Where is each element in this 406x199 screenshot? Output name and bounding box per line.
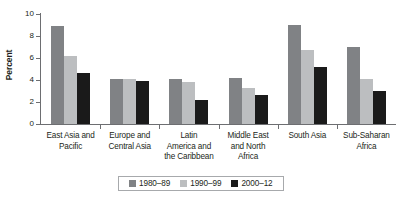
- bar: [136, 81, 149, 124]
- bar: [373, 91, 386, 124]
- legend-item[interactable]: 1990–99: [180, 179, 221, 188]
- x-axis-category-label: Middle Eastand NorthAfrica: [215, 131, 282, 163]
- x-axis-tick: [337, 125, 338, 129]
- legend-label: 1990–99: [190, 179, 221, 188]
- y-axis-tick: [36, 36, 40, 37]
- bar-group: [278, 14, 337, 124]
- bar: [314, 67, 327, 124]
- y-axis-tick-label: 2: [12, 98, 34, 106]
- x-axis-tick: [219, 125, 220, 129]
- bar: [195, 100, 208, 124]
- plot-area: [41, 14, 396, 124]
- y-axis-tick-label: 4: [12, 76, 34, 84]
- bar-chart: Percent 0246810 East Asia andPacificEuro…: [0, 0, 406, 199]
- bar: [347, 47, 360, 124]
- x-axis-tick: [278, 125, 279, 129]
- x-axis-category-label: East Asia andPacific: [37, 131, 104, 152]
- y-axis-title: Percent: [0, 0, 18, 130]
- y-axis-tick-label: 0: [12, 120, 34, 128]
- y-axis-tick: [36, 102, 40, 103]
- x-axis-tick: [100, 125, 101, 129]
- bar-group: [41, 14, 100, 124]
- y-axis-tick: [36, 58, 40, 59]
- bar: [77, 73, 90, 124]
- legend-label: 2000–12: [241, 179, 272, 188]
- y-axis-tick: [36, 124, 40, 125]
- x-axis-tick: [159, 125, 160, 129]
- bar: [182, 82, 195, 124]
- bar-group: [337, 14, 396, 124]
- bar: [51, 26, 64, 124]
- x-axis-category-label: South Asia: [274, 131, 341, 142]
- bar: [242, 88, 255, 124]
- bar: [360, 79, 373, 124]
- chart-legend: 1980–891990–992000–12: [118, 176, 284, 191]
- y-axis-tick: [36, 14, 40, 15]
- y-axis-tick: [36, 80, 40, 81]
- legend-item[interactable]: 2000–12: [231, 179, 272, 188]
- bar: [64, 56, 77, 124]
- legend-item[interactable]: 1980–89: [129, 179, 170, 188]
- legend-swatch-icon: [129, 180, 136, 187]
- legend-swatch-icon: [180, 180, 187, 187]
- bar-group: [159, 14, 218, 124]
- bar: [229, 78, 242, 124]
- legend-swatch-icon: [231, 180, 238, 187]
- bar-group: [100, 14, 159, 124]
- x-axis-category-label: LatinAmerica andthe Caribbean: [155, 131, 222, 163]
- y-axis-tick-label: 8: [12, 32, 34, 40]
- y-axis-tick-label: 6: [12, 54, 34, 62]
- legend-label: 1980–89: [139, 179, 170, 188]
- x-axis-category-label: Europe andCentral Asia: [96, 131, 163, 152]
- bar: [255, 95, 268, 124]
- bar: [169, 79, 182, 124]
- bar: [288, 25, 301, 124]
- bar: [301, 50, 314, 124]
- x-axis-category-label: Sub-SaharanAfrica: [333, 131, 400, 152]
- bar: [110, 79, 123, 124]
- bar-group: [219, 14, 278, 124]
- y-axis-tick-label: 10: [12, 10, 34, 18]
- bar: [123, 79, 136, 124]
